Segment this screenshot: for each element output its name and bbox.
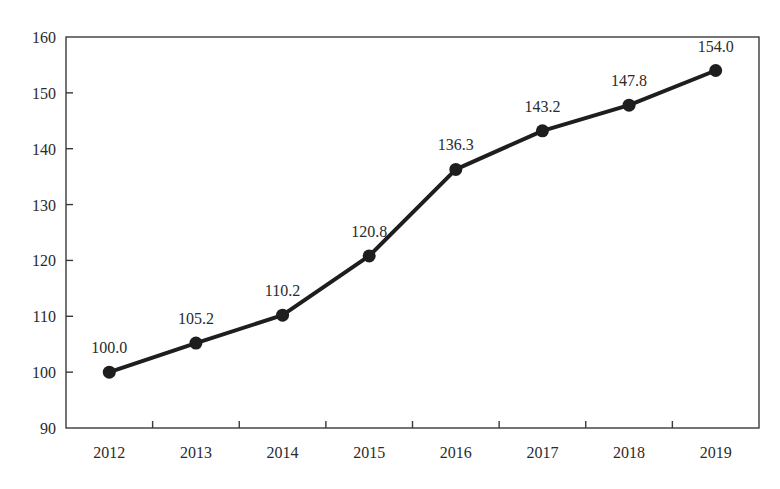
data-point-marker	[189, 337, 202, 350]
data-point-marker	[709, 64, 722, 77]
data-point-marker	[363, 249, 376, 262]
x-tick-label: 2015	[353, 444, 385, 461]
data-point-marker	[276, 309, 289, 322]
data-point-marker	[536, 124, 549, 137]
data-label: 100.0	[91, 339, 127, 356]
x-axis: 20122013201420152016201720182019	[93, 421, 731, 461]
y-tick-label: 100	[32, 364, 56, 381]
data-label: 143.2	[524, 98, 560, 115]
series-group: 100.0105.2110.2120.8136.3143.2147.8154.0	[91, 38, 733, 379]
data-point-marker	[449, 163, 462, 176]
data-label: 120.8	[351, 223, 387, 240]
x-tick-label: 2017	[526, 444, 558, 461]
x-tick-label: 2014	[267, 444, 299, 461]
data-label: 136.3	[438, 136, 474, 153]
y-tick-label: 120	[32, 252, 56, 269]
y-tick-label: 90	[40, 420, 56, 437]
data-point-marker	[103, 366, 116, 379]
y-tick-label: 140	[32, 141, 56, 158]
x-tick-label: 2016	[440, 444, 472, 461]
line-chart: 90100110120130140150160 2012201320142015…	[0, 0, 780, 489]
x-tick-label: 2012	[93, 444, 125, 461]
data-point-marker	[623, 99, 636, 112]
data-label: 154.0	[698, 38, 734, 55]
data-label: 110.2	[265, 282, 300, 299]
data-label: 105.2	[178, 310, 214, 327]
y-tick-label: 160	[32, 29, 56, 46]
x-tick-label: 2018	[613, 444, 645, 461]
data-label: 147.8	[611, 72, 647, 89]
x-tick-label: 2013	[180, 444, 212, 461]
x-tick-label: 2019	[700, 444, 732, 461]
y-axis: 90100110120130140150160	[32, 29, 73, 437]
y-tick-label: 150	[32, 85, 56, 102]
y-tick-label: 110	[33, 308, 56, 325]
y-tick-label: 130	[32, 197, 56, 214]
